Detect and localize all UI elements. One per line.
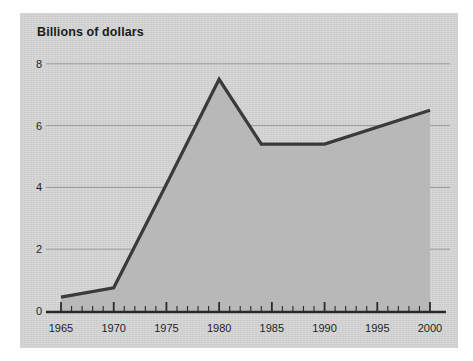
area-series-group — [61, 79, 430, 311]
chart-figure: Billions of dollars 86420 19651970197519… — [0, 0, 473, 361]
y-axis-tick-label: 8 — [24, 58, 42, 70]
x-axis-tick-label: 1965 — [41, 322, 81, 334]
plot-area — [0, 0, 473, 361]
y-axis-tick-label: 0 — [24, 305, 42, 317]
x-axis-tick-label: 1995 — [357, 322, 397, 334]
x-axis-tick-label: 1985 — [252, 322, 292, 334]
x-axis-tick-label: 2000 — [410, 322, 450, 334]
x-axis-tick-label: 1990 — [305, 322, 345, 334]
area-fill — [61, 79, 430, 311]
y-axis-tick-label: 4 — [24, 181, 42, 193]
y-axis-tick-label: 6 — [24, 120, 42, 132]
x-axis-tick-label: 1975 — [146, 322, 186, 334]
y-axis-tick-label: 2 — [24, 243, 42, 255]
x-axis-tick-label: 1970 — [94, 322, 134, 334]
x-axis-tick-label: 1980 — [199, 322, 239, 334]
